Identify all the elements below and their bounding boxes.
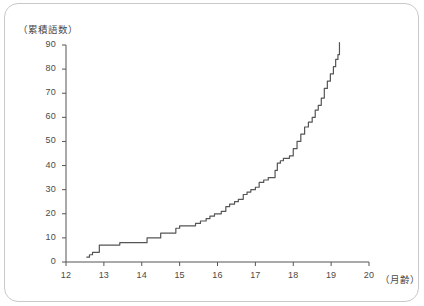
axis-lines <box>66 45 369 262</box>
y-axis-ticks <box>62 45 66 262</box>
cumulative-vocabulary-line <box>87 43 340 258</box>
chart-figure: （累積語数） （月齢） 0102030405060708090121314151… <box>0 0 424 306</box>
x-axis-ticks <box>66 262 369 266</box>
plot-area <box>0 0 424 306</box>
